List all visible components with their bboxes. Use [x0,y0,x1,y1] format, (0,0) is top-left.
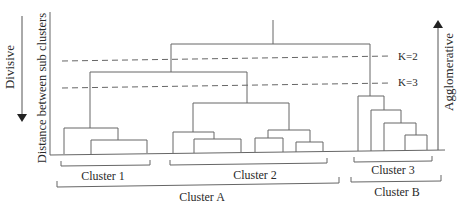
cut-line-k2 [62,56,392,61]
cluster-a-label: Cluster A [179,190,225,204]
dendrogram-tree [64,20,427,154]
bracket-cluster-1 [61,160,150,166]
cluster-3-label: Cluster 3 [371,163,415,177]
cluster-1-label: Cluster 1 [81,169,125,183]
cluster-2-label: Cluster 2 [233,168,277,182]
cluster-b-label: Cluster B [374,185,420,199]
dendrogram-figure: Divisive Distance between sub clusters A… [0,0,458,209]
divisive-label: Divisive [2,45,17,89]
cut-label-k2: K=2 [398,50,418,62]
bracket-cluster-3 [354,156,432,162]
agglomerative-label: Agglomerative [441,33,456,111]
bracket-cluster-2 [170,158,327,165]
cut-label-k3: K=3 [398,76,418,88]
cut-line-k3 [62,83,392,88]
y-axis-label: Distance between sub clusters [35,13,49,163]
